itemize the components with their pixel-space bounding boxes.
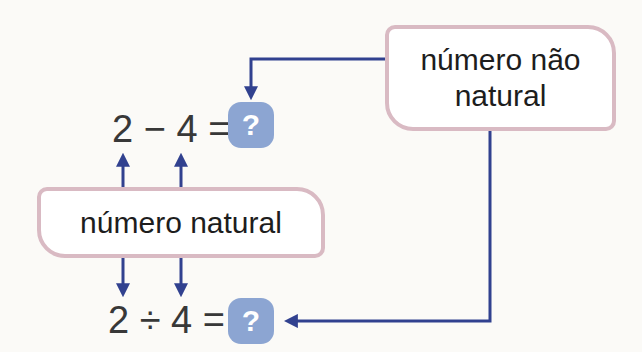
subtraction-equation: 2 − 4 = bbox=[112, 106, 230, 152]
arrow-non-natural-to-subtraction-result bbox=[251, 59, 389, 96]
natural-number-label: número natural bbox=[80, 205, 282, 241]
non-natural-number-box: número não natural bbox=[385, 25, 616, 131]
diagram-canvas: 2 − 4 = ? número não natural número natu… bbox=[0, 0, 642, 352]
division-result-badge: ? bbox=[228, 298, 274, 344]
division-equation: 2 ÷ 4 = bbox=[108, 297, 225, 343]
subtraction-result-badge: ? bbox=[228, 102, 274, 148]
natural-number-box: número natural bbox=[37, 187, 325, 258]
non-natural-number-label: número não natural bbox=[399, 42, 602, 114]
